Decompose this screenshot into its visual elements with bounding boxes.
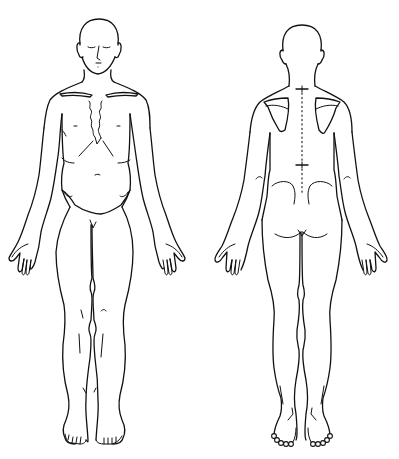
spine-lower-marker [296,162,308,168]
spine-upper-marker [296,86,308,92]
back-left-foot-toes [272,428,296,446]
back-body-figure [0,0,399,459]
back-head [280,25,324,86]
body-diagram [0,0,399,459]
back-right-foot-toes [308,428,332,446]
back-arms [215,132,387,275]
back-torso [250,86,352,238]
back-legs [262,220,342,446]
